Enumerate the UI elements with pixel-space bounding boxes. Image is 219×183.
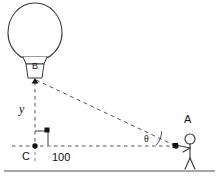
observer-figure-icon xyxy=(173,134,196,169)
label-angle-theta: θ xyxy=(144,134,149,144)
label-point-B: B xyxy=(32,62,38,71)
vertex-marker-C xyxy=(32,143,37,148)
right-angle-marker-icon xyxy=(35,128,50,146)
label-point-A: A xyxy=(184,114,191,125)
balloon-trigonometry-diagram: B y C 100 θ A xyxy=(0,0,219,183)
label-point-C: C xyxy=(22,151,30,162)
balloon-envelope-icon xyxy=(8,3,62,59)
diagram-canvas xyxy=(0,0,219,183)
hypotenuse-BA xyxy=(36,80,176,146)
label-base-length: 100 xyxy=(52,152,70,163)
label-height-y: y xyxy=(19,103,24,115)
